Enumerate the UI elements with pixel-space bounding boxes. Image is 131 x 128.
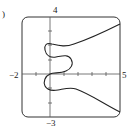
- chart-canvas: [0, 0, 131, 128]
- curve: [44, 24, 120, 112]
- x-min-label: −2: [9, 70, 19, 80]
- y-max-label: 4: [53, 5, 58, 15]
- x-max-label: 5: [122, 70, 127, 80]
- y-min-label: −3: [46, 118, 56, 128]
